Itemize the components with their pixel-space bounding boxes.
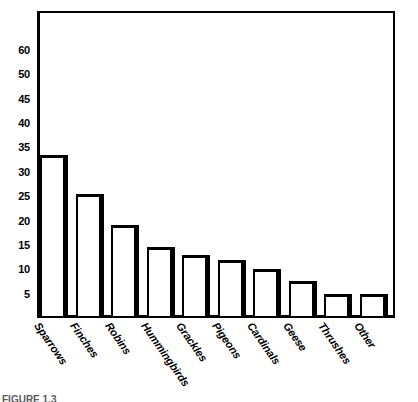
bar-slot (218, 11, 246, 318)
x-axis: SparrowsFinchesRobinsHummingbirdsGrackle… (40, 318, 395, 402)
bar-thrushes[interactable] (324, 294, 352, 318)
bar-slot (253, 11, 281, 318)
y-axis-tick-label: 20 (18, 215, 30, 227)
bar-chart-figure: 510152025303540455060 SparrowsFinchesRob… (0, 0, 418, 402)
bar-slot (289, 11, 317, 318)
y-axis-tick-label: 60 (18, 44, 30, 56)
y-axis-tick-label: 15 (18, 239, 30, 251)
y-axis-tick-label: 40 (18, 117, 30, 129)
x-axis-tick-label: Thrushes (316, 320, 353, 366)
bar-robins[interactable] (111, 225, 139, 318)
y-axis-tick-label: 35 (18, 141, 30, 153)
bar-grackles[interactable] (182, 255, 210, 318)
y-axis-tick-label: 50 (18, 68, 30, 80)
x-axis-tick-label: Pigeons (210, 320, 244, 361)
bar-slot (76, 11, 104, 318)
x-axis-tick-label: Geese (281, 320, 309, 353)
bar-sparrows[interactable] (40, 155, 68, 318)
y-axis-tick-label: 45 (18, 93, 30, 105)
bar-slot (111, 11, 139, 318)
bars-area (40, 11, 395, 318)
bar-hummingbirds[interactable] (147, 247, 175, 318)
figure-caption-sliver: FIGURE 1.3 (2, 395, 222, 402)
y-axis-tick-label: 10 (18, 263, 30, 275)
bar-slot (324, 11, 352, 318)
bar-slot (360, 11, 388, 318)
bar-other[interactable] (360, 294, 388, 318)
bar-geese[interactable] (289, 281, 317, 318)
bar-slot (182, 11, 210, 318)
bar-finches[interactable] (76, 194, 104, 318)
y-axis: 510152025303540455060 (0, 11, 34, 318)
y-axis-tick-label: 5 (24, 288, 30, 300)
x-axis-tick-label: Other (352, 320, 378, 350)
x-axis-tick-label: Sparrows (32, 320, 70, 367)
bar-pigeons[interactable] (218, 260, 246, 318)
y-axis-tick-label: 25 (18, 190, 30, 202)
y-axis-tick-label: 30 (18, 166, 30, 178)
x-axis-tick-label: Robins (103, 320, 134, 356)
x-axis-tick-label: Cardinals (245, 320, 283, 366)
x-axis-tick-label: Finches (68, 320, 101, 360)
bar-slot (147, 11, 175, 318)
bar-slot (40, 11, 68, 318)
x-axis-tick-label: Grackles (174, 320, 210, 364)
bar-cardinals[interactable] (253, 269, 281, 318)
